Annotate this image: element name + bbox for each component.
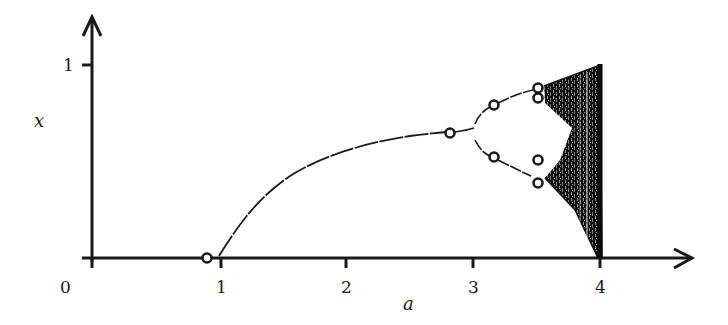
marker-circle: [534, 179, 543, 188]
origin-label: 0: [60, 277, 71, 297]
marker-circle: [203, 254, 212, 263]
period-2-lower-branch: [475, 140, 531, 176]
period-2-upper-branch: [475, 90, 533, 124]
bifurcation-diagram: 0 1 2 3 4 a 1 x: [0, 0, 728, 325]
y-tick-label-1: 1: [63, 55, 74, 75]
marker-circle: [446, 129, 455, 138]
fixed-point-curve: [219, 132, 446, 256]
x-axis-label: a: [403, 293, 414, 314]
x-tick-label-2: 2: [341, 277, 352, 297]
y-axis-label: x: [34, 110, 44, 131]
y-axis: [82, 17, 101, 262]
marker-circle: [534, 94, 543, 103]
chaotic-region: [544, 64, 602, 258]
marker-circle: [534, 84, 543, 93]
marker-circle: [490, 101, 499, 110]
x-tick-label-3: 3: [468, 277, 479, 297]
x-tick-label-4: 4: [595, 277, 606, 297]
marker-circle: [534, 156, 543, 165]
bifurcation-markers: [203, 84, 543, 263]
x-tick-label-1: 1: [216, 277, 227, 297]
marker-circle: [490, 153, 499, 162]
